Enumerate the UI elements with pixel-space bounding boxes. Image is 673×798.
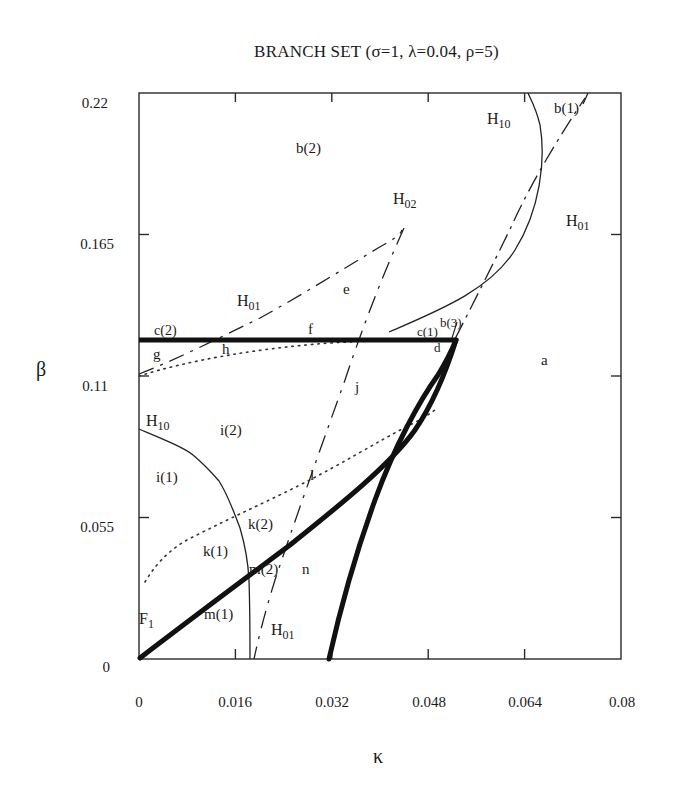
region-label-a: a [541, 352, 548, 369]
region-label-c2: c(2) [154, 323, 177, 339]
x-tick-label: 0.064 [490, 694, 560, 711]
x-axis-label: κ [373, 745, 383, 768]
y-ticks [139, 235, 621, 518]
x-tick-label: 0 [104, 694, 174, 711]
x-tick-label: 0.016 [200, 694, 270, 711]
region-label-c1: c(1) [417, 324, 438, 340]
region-label-b3: b(3) [440, 315, 462, 331]
region-label-k2: k(2) [248, 516, 273, 533]
region-label-b2: b(2) [296, 140, 321, 157]
curve-label-h01-bottom: H01 [271, 621, 295, 643]
region-label-m2: m(2) [249, 561, 278, 578]
curve-label-h10-left: H10 [146, 412, 170, 434]
region-label-f: f [308, 321, 313, 338]
region-label-d: d [434, 340, 441, 356]
curve-h10-upper [389, 93, 542, 332]
y-tick-label: 0.165 [54, 236, 114, 253]
region-label-l: l [310, 467, 314, 484]
region-label-k1: k(1) [203, 543, 228, 560]
region-label-n: n [302, 561, 310, 578]
region-label-j: j [355, 379, 359, 396]
y-tick-label: 0.055 [54, 519, 114, 536]
branch-set-figure: BRANCH SET (σ=1, λ=0.04, ρ=5) [0, 0, 673, 798]
x-tick-label: 0.08 [587, 694, 657, 711]
curve-label-h02: H02 [393, 190, 417, 212]
region-label-b1: b(1) [554, 100, 579, 117]
y-tick-label: 0.22 [48, 95, 108, 112]
curve-label-h01-right: H01 [566, 212, 590, 234]
curve-label-h01-mid: H01 [237, 292, 261, 314]
region-label-m1: m(1) [204, 606, 233, 623]
region-label-g: g [153, 346, 161, 363]
y-axis-label: β [36, 358, 46, 381]
y-tick-label: 0 [50, 659, 110, 676]
region-label-i2: i(2) [220, 422, 242, 439]
y-tick-label: 0.11 [48, 378, 108, 395]
x-ticks [235, 93, 524, 659]
curve-dotted-f1 [145, 410, 435, 582]
curve-h01-upper-left [139, 230, 402, 374]
plot-frame [139, 93, 621, 659]
curve-dotted-upper [139, 340, 450, 376]
curve-h02-steep [254, 228, 404, 659]
region-label-i1: i(1) [156, 469, 178, 486]
region-label-h: h [222, 341, 230, 358]
curve-b1-boundary [583, 93, 588, 104]
x-tick-label: 0.032 [297, 694, 367, 711]
curve-h10-lower [139, 429, 250, 659]
region-label-e: e [343, 281, 350, 298]
curve-label-h10-top: H10 [487, 110, 511, 132]
x-tick-label: 0.048 [394, 694, 464, 711]
curve-label-f1: F1 [139, 610, 154, 632]
thick-boundary-origin [140, 340, 456, 658]
plot-area [0, 0, 673, 798]
